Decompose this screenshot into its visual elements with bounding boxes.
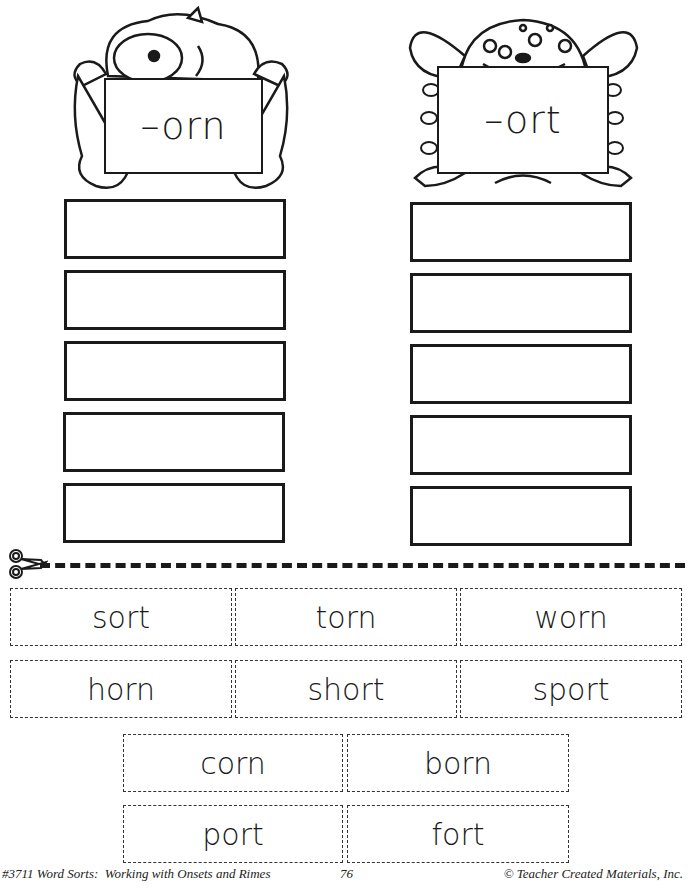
word-card-horn[interactable]: horn [10, 660, 232, 718]
ort-monster-illustration: –ort [405, 8, 641, 192]
cut-line [40, 563, 685, 568]
word-card-torn[interactable]: torn [235, 588, 457, 646]
ort-answer-box-4[interactable] [410, 415, 632, 475]
word-card-corn[interactable]: corn [123, 734, 343, 792]
word-card-sport[interactable]: sport [460, 660, 682, 718]
orn-answer-box-2[interactable] [64, 270, 286, 330]
footer-book-title: #3711 Word Sorts: Working with Onsets an… [2, 866, 270, 882]
ort-answer-box-1[interactable] [410, 202, 632, 262]
footer-copyright: © Teacher Created Materials, Inc. [504, 866, 683, 882]
footer-page-number: 76 [340, 866, 353, 882]
orn-answer-box-1[interactable] [64, 199, 286, 259]
ort-answer-box-5[interactable] [410, 486, 632, 546]
orn-answer-box-5[interactable] [63, 483, 285, 543]
orn-answer-box-4[interactable] [63, 412, 285, 472]
word-card-short[interactable]: short [235, 660, 457, 718]
ort-rime-sign: –ort [437, 66, 609, 174]
orn-answer-box-3[interactable] [64, 341, 286, 401]
word-card-fort[interactable]: fort [347, 805, 569, 863]
word-card-worn[interactable]: worn [460, 588, 682, 646]
orn-monster-illustration: –orn [68, 6, 294, 194]
ort-answer-box-3[interactable] [410, 344, 632, 404]
word-card-born[interactable]: born [347, 734, 569, 792]
orn-rime-sign: –orn [104, 78, 263, 174]
ort-answer-box-2[interactable] [410, 273, 632, 333]
word-card-port[interactable]: port [123, 805, 343, 863]
word-card-sort[interactable]: sort [10, 588, 232, 646]
